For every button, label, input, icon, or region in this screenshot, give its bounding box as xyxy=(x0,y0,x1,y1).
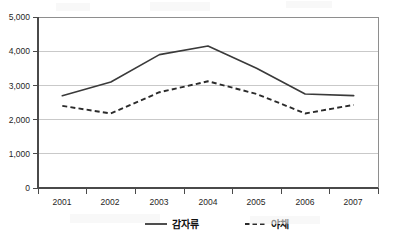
x-tick-label: 2007 xyxy=(344,197,363,207)
plot-background xyxy=(38,17,378,188)
chart-canvas: 5,000 4,000 3,000 2,000 1,000 0 2001 200… xyxy=(0,0,395,239)
y-axis-ticks xyxy=(33,17,38,188)
y-tick-label: 4,000 xyxy=(9,46,31,56)
y-tick-label: 2,000 xyxy=(9,115,31,125)
y-tick-label: 0 xyxy=(25,183,30,193)
x-tick-label: 2001 xyxy=(53,197,72,207)
y-tick-label: 5,000 xyxy=(9,12,31,22)
y-tick-label: 1,000 xyxy=(9,149,31,159)
legend-label-dashed: 야채 xyxy=(271,218,289,230)
line-chart: 5,000 4,000 3,000 2,000 1,000 0 2001 200… xyxy=(0,0,395,239)
x-tick-label: 2006 xyxy=(296,197,315,207)
y-tick-label: 3,000 xyxy=(9,81,31,91)
chart-legend: 감자류 야채 xyxy=(145,218,289,230)
x-tick-label: 2003 xyxy=(150,197,169,207)
x-tick-label: 2004 xyxy=(199,197,218,207)
x-tick-label: 2002 xyxy=(101,197,120,207)
y-axis-labels: 5,000 4,000 3,000 2,000 1,000 0 xyxy=(9,12,31,193)
legend-label-solid: 감자류 xyxy=(172,218,199,230)
x-axis-ticks xyxy=(38,188,378,194)
x-tick-label: 2005 xyxy=(247,197,266,207)
x-axis-labels: 2001 2002 2003 2004 2005 2006 2007 xyxy=(53,197,363,207)
